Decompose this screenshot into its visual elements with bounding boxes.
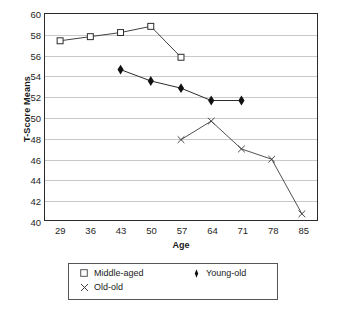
x-tick-label: 43 bbox=[116, 225, 127, 236]
data-point-filled-diamond bbox=[178, 83, 184, 93]
x-tick-label: 64 bbox=[207, 225, 218, 236]
legend-entry-middle-aged: Middle-aged bbox=[77, 268, 189, 278]
series-middle-aged bbox=[57, 23, 184, 60]
x-tick-label: 50 bbox=[146, 225, 157, 236]
y-tick-label: 58 bbox=[30, 29, 41, 40]
data-point-open-square bbox=[148, 23, 154, 29]
x-tick-label: 78 bbox=[268, 225, 279, 236]
data-point-cross-x bbox=[299, 210, 306, 217]
y-tick-label: 48 bbox=[30, 133, 41, 144]
series-young-old bbox=[117, 65, 244, 106]
y-tick-label: 44 bbox=[30, 175, 41, 186]
y-tick-label: 54 bbox=[30, 71, 41, 82]
y-tick-label: 42 bbox=[30, 196, 41, 207]
data-point-cross-x bbox=[178, 136, 185, 143]
x-axis-title: Age bbox=[44, 240, 318, 250]
data-point-open-square bbox=[57, 38, 63, 44]
data-series-layer bbox=[45, 14, 317, 220]
series-old-old bbox=[178, 118, 306, 217]
y-tick-label: 52 bbox=[30, 92, 41, 103]
x-tick-label: 85 bbox=[298, 225, 309, 236]
legend-label-middle-aged: Middle-aged bbox=[94, 268, 144, 278]
cross-x-icon bbox=[77, 283, 91, 292]
open-square-icon bbox=[77, 269, 91, 277]
data-point-open-square bbox=[178, 54, 184, 60]
data-point-filled-diamond bbox=[148, 76, 154, 86]
plot-area: 4042444648505254565860 29364350576471788… bbox=[44, 13, 318, 221]
chart-figure: T-Score Means 4042444648505254565860 293… bbox=[0, 0, 346, 310]
legend-row: Old-old bbox=[77, 282, 269, 296]
legend-entry-young-old: Young-old bbox=[189, 268, 246, 278]
legend-row: Middle-aged Young-old bbox=[77, 268, 269, 282]
data-point-cross-x bbox=[268, 156, 275, 163]
x-tick-label: 29 bbox=[55, 225, 66, 236]
y-tick-label: 40 bbox=[30, 217, 41, 228]
data-point-open-square bbox=[87, 34, 93, 40]
legend-label-young-old: Young-old bbox=[206, 268, 246, 278]
data-point-filled-diamond bbox=[117, 65, 123, 75]
filled-diamond-icon bbox=[189, 269, 203, 278]
legend-entry-old-old: Old-old bbox=[77, 282, 189, 292]
legend-label-old-old: Old-old bbox=[94, 282, 123, 292]
y-tick-label: 60 bbox=[30, 9, 41, 20]
data-point-open-square bbox=[118, 30, 124, 36]
data-point-filled-diamond bbox=[208, 96, 214, 106]
data-point-cross-x bbox=[238, 146, 245, 153]
x-tick-label: 36 bbox=[85, 225, 96, 236]
data-point-cross-x bbox=[208, 118, 215, 125]
chart-legend: Middle-aged Young-old Old-old bbox=[68, 263, 278, 300]
y-tick-label: 46 bbox=[30, 154, 41, 165]
y-tick-label: 50 bbox=[30, 113, 41, 124]
y-tick-label: 56 bbox=[30, 50, 41, 61]
x-tick-label: 57 bbox=[177, 225, 188, 236]
data-point-filled-diamond bbox=[238, 96, 244, 106]
x-tick-label: 71 bbox=[238, 225, 249, 236]
